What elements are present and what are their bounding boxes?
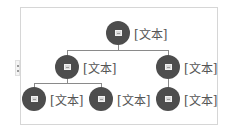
node-level2-right[interactable]: [文本] bbox=[156, 55, 217, 79]
node-level3-1[interactable]: [文本] bbox=[22, 87, 83, 111]
picture-circle[interactable] bbox=[106, 21, 130, 45]
node-level2-left[interactable]: [文本] bbox=[55, 55, 116, 79]
node-label[interactable]: [文本] bbox=[83, 59, 116, 76]
node-label[interactable]: [文本] bbox=[117, 91, 150, 108]
picture-placeholder-icon bbox=[98, 96, 105, 102]
picture-circle[interactable] bbox=[156, 55, 180, 79]
node-label[interactable]: [文本] bbox=[50, 91, 83, 108]
picture-placeholder-icon bbox=[165, 64, 172, 70]
picture-circle[interactable] bbox=[156, 87, 180, 111]
picture-placeholder-icon bbox=[115, 30, 122, 36]
connector-level2-bar bbox=[67, 50, 169, 51]
picture-placeholder-icon bbox=[64, 64, 71, 70]
node-label[interactable]: [文本] bbox=[184, 59, 217, 76]
picture-circle[interactable] bbox=[22, 87, 46, 111]
node-level3-2[interactable]: [文本] bbox=[89, 87, 150, 111]
connector-level3-bar bbox=[34, 83, 102, 84]
node-label[interactable]: [文本] bbox=[184, 91, 217, 108]
node-label[interactable]: [文本] bbox=[134, 25, 167, 42]
node-root[interactable]: [文本] bbox=[106, 21, 167, 45]
picture-placeholder-icon bbox=[165, 96, 172, 102]
handle-arrow-icon bbox=[17, 70, 19, 72]
picture-circle[interactable] bbox=[89, 87, 113, 111]
picture-placeholder-icon bbox=[31, 96, 38, 102]
text-pane-toggle-handle[interactable] bbox=[15, 60, 20, 76]
node-level3-3[interactable]: [文本] bbox=[156, 87, 217, 111]
handle-arrow-icon bbox=[17, 65, 19, 67]
picture-circle[interactable] bbox=[55, 55, 79, 79]
